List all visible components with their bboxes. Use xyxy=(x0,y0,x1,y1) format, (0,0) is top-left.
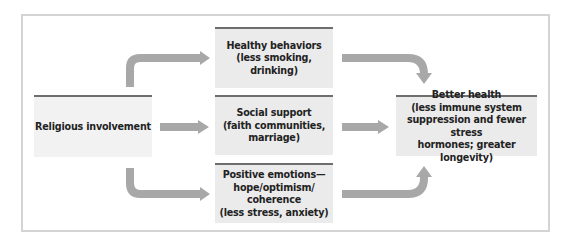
mediator-box-social-support: Social support (faith communities, marri… xyxy=(215,95,333,155)
arrow-source-to-emotions xyxy=(130,168,200,194)
outcome-detail: suppression and fewer stress xyxy=(396,114,537,139)
arrowhead-icon xyxy=(200,51,210,65)
mediator-detail: marriage) xyxy=(223,132,325,145)
arrowhead-icon xyxy=(416,73,432,84)
source-box-religious-involvement: Religious involvement xyxy=(34,95,152,157)
mediator-box-positive-emotions: Positive emotions— hope/optimism/ cohere… xyxy=(215,163,333,223)
mediator-detail: (less smoking, drinking) xyxy=(215,52,333,77)
mediator-detail: (less stress, anxiety) xyxy=(220,207,329,220)
arrowhead-icon xyxy=(416,166,432,177)
mediator-title: Positive emotions— xyxy=(220,169,329,182)
arrowhead-icon xyxy=(198,120,209,134)
mediator-detail: hope/optimism/ xyxy=(220,182,329,195)
arrowhead-icon xyxy=(200,187,210,201)
mediator-detail: coherence xyxy=(220,194,329,207)
outcome-title: Better health xyxy=(396,89,537,102)
mediator-title: Healthy behaviors xyxy=(215,40,333,53)
arrowhead-icon xyxy=(378,120,389,134)
outcome-detail: (less immune system xyxy=(396,102,537,115)
arrow-emotions-to-outcome xyxy=(342,176,424,194)
source-label: Religious involvement xyxy=(35,121,151,134)
arrow-behaviors-to-outcome xyxy=(342,58,424,74)
mediator-title: Social support xyxy=(223,107,325,120)
outcome-detail: hormones; greater longevity) xyxy=(396,139,537,164)
mediator-box-healthy-behaviors: Healthy behaviors (less smoking, drinkin… xyxy=(215,27,333,88)
outcome-box-better-health: Better health (less immune system suppre… xyxy=(396,95,537,156)
arrow-source-to-behaviors xyxy=(130,58,200,87)
mediator-detail: (faith communities, xyxy=(223,120,325,133)
